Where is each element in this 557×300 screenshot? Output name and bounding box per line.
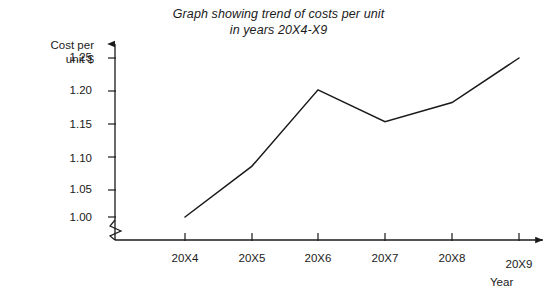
- cost-trend-line: [185, 58, 519, 217]
- cost-per-unit-line-chart: Graph showing trend of costs per unit in…: [0, 0, 557, 300]
- chart-plot-area: [0, 0, 557, 300]
